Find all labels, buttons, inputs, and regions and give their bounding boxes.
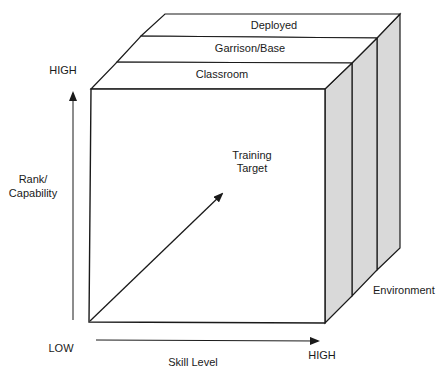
side-face-deployed xyxy=(377,14,400,270)
layer-label-classroom: Classroom xyxy=(196,68,249,80)
side-face-classroom xyxy=(325,63,352,323)
x-axis-arrow xyxy=(96,340,318,341)
y-axis-high-label: HIGH xyxy=(49,64,77,76)
x-axis-high-label: HIGH xyxy=(308,349,336,361)
training-cube-diagram: Deployed Garrison/Base Classroom Trainin… xyxy=(0,0,439,375)
training-target-label-line1: Training xyxy=(232,149,271,161)
y-axis-label-line1: Rank/ xyxy=(19,173,49,185)
training-target-label-line2: Target xyxy=(237,162,268,174)
x-axis-label: Skill Level xyxy=(168,356,218,368)
y-axis-low-label: LOW xyxy=(48,342,74,354)
layer-label-garrison: Garrison/Base xyxy=(215,42,285,54)
y-axis-label-line2: Capability xyxy=(9,187,58,199)
side-face-garrison xyxy=(352,38,377,296)
z-axis-label: Environment xyxy=(373,284,435,296)
layer-label-deployed: Deployed xyxy=(251,19,297,31)
